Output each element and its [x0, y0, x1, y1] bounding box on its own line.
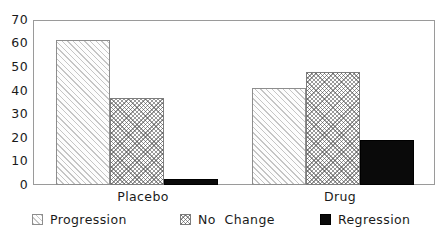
bar-placebo-regression	[164, 179, 218, 185]
bar-placebo-no-change	[110, 98, 164, 185]
x-category-label-drug: Drug	[275, 190, 405, 203]
legend-swatch-no-change-icon	[180, 214, 191, 225]
bar-drug-regression	[360, 140, 414, 185]
y-tick-label-40: 40	[11, 85, 28, 97]
y-tick-label-10: 10	[11, 155, 28, 167]
bar-chart: 70 60 50 40 30 20 10 0 Placebo Drug Prog…	[0, 0, 447, 238]
legend-label-regression: Regression	[338, 213, 410, 226]
bar-drug-no-change	[306, 72, 360, 185]
legend-swatch-regression-icon	[320, 214, 331, 225]
legend-item-regression: Regression	[320, 210, 410, 228]
bars-layer	[33, 20, 435, 185]
bar-drug-progression	[252, 88, 306, 185]
bar-placebo-progression	[56, 40, 110, 185]
y-tick-label-60: 60	[11, 37, 28, 49]
legend-label-progression: Progression	[50, 213, 127, 226]
x-category-label-placebo: Placebo	[78, 190, 208, 203]
y-tick-label-30: 30	[11, 108, 28, 120]
y-tick-label-70: 70	[11, 14, 28, 26]
legend: Progression No Change Regression	[0, 210, 447, 238]
legend-swatch-progression-icon	[32, 214, 43, 225]
legend-item-no-change: No Change	[180, 210, 275, 228]
y-axis: 70 60 50 40 30 20 10 0	[0, 0, 33, 238]
legend-label-no-change: No Change	[198, 213, 275, 226]
y-tick-label-50: 50	[11, 61, 28, 73]
legend-item-progression: Progression	[32, 210, 127, 228]
y-tick-label-20: 20	[11, 132, 28, 144]
y-tick-label-0: 0	[20, 179, 28, 191]
